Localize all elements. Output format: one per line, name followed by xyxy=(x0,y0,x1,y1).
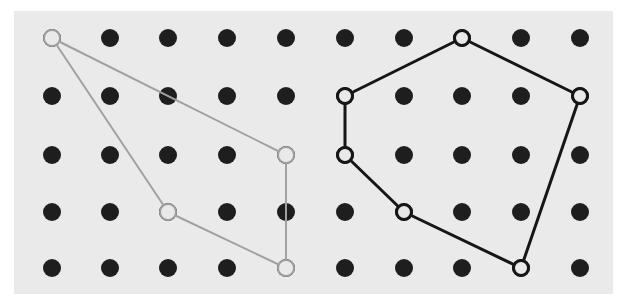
gray-polygon-vertex xyxy=(278,147,294,163)
grid-dot xyxy=(453,87,471,105)
grid-dot xyxy=(453,146,471,164)
grid-dot xyxy=(336,203,354,221)
grid-dot xyxy=(395,146,413,164)
grid-dot xyxy=(571,259,589,277)
grid-dot xyxy=(218,259,236,277)
polygon-vertex-layer xyxy=(44,30,588,276)
dot-grid-figure xyxy=(0,0,623,298)
grid-dot xyxy=(159,259,177,277)
grid-dot xyxy=(43,87,61,105)
grid-dot xyxy=(395,87,413,105)
grid-dot xyxy=(101,87,119,105)
grid-dot xyxy=(43,259,61,277)
grid-dot xyxy=(395,29,413,47)
grid-dot xyxy=(101,203,119,221)
gray-polygon-vertex xyxy=(44,30,60,46)
grid-dot xyxy=(43,203,61,221)
black-polygon-vertex xyxy=(397,205,412,220)
grid-dot xyxy=(277,87,295,105)
grid-dot-layer xyxy=(43,29,589,277)
grid-dot xyxy=(453,203,471,221)
grid-dot xyxy=(336,29,354,47)
grid-dot xyxy=(512,146,530,164)
grid-dot xyxy=(43,146,61,164)
grid-dot xyxy=(571,146,589,164)
grid-dot xyxy=(512,203,530,221)
grid-dot xyxy=(277,29,295,47)
grid-dot xyxy=(218,146,236,164)
grid-dot xyxy=(159,146,177,164)
grid-dot xyxy=(453,259,471,277)
grid-dot xyxy=(218,203,236,221)
gray-polygon-vertex xyxy=(278,260,294,276)
figure-canvas xyxy=(0,0,623,298)
black-polygon-vertex xyxy=(573,89,588,104)
grid-dot xyxy=(101,146,119,164)
grid-dot xyxy=(336,259,354,277)
gray-polygon-vertex xyxy=(160,204,176,220)
grid-dot xyxy=(218,87,236,105)
black-polygon-vertex xyxy=(455,31,470,46)
grid-dot xyxy=(159,29,177,47)
grid-dot xyxy=(512,87,530,105)
grid-dot xyxy=(101,29,119,47)
black-polygon-vertex xyxy=(338,89,353,104)
grid-dot xyxy=(101,259,119,277)
black-polygon-vertex xyxy=(338,148,353,163)
grid-dot xyxy=(395,259,413,277)
grid-dot xyxy=(571,203,589,221)
grid-dot xyxy=(571,29,589,47)
grid-dot xyxy=(512,29,530,47)
black-polygon-vertex xyxy=(514,261,529,276)
grid-dot xyxy=(218,29,236,47)
polygon-layer xyxy=(52,38,580,268)
